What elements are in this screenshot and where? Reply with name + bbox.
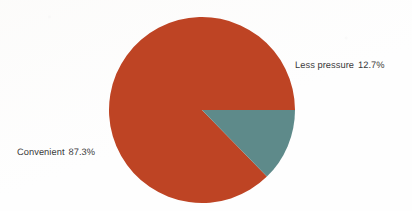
pie-label-convenient-value: 87.3%	[69, 147, 96, 157]
pie-slices-group	[109, 17, 295, 203]
pie-label-convenient-name: Convenient	[17, 147, 65, 157]
pie-label-less-pressure-value: 12.7%	[358, 60, 385, 70]
pie-chart-canvas	[0, 0, 412, 211]
pie-label-less-pressure: Less pressure12.7%	[295, 59, 385, 71]
pie-chart-figure: Less pressure12.7% Convenient87.3%	[0, 0, 412, 211]
pie-label-less-pressure-name: Less pressure	[295, 60, 354, 70]
pie-label-convenient: Convenient87.3%	[17, 146, 95, 158]
